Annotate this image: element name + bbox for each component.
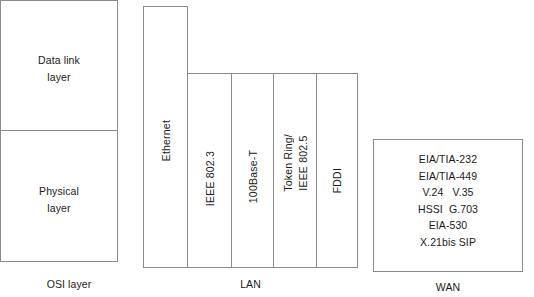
lan-column-token-ring-label-wrap: Token Ring/ IEEE 802.5 xyxy=(274,74,316,267)
osi-physical-layer-label: Physical layer xyxy=(1,183,117,217)
wan-technology-box: EIA/TIA-232 EIA/TIA-449 V.24 V.35 HSSI G… xyxy=(373,139,523,272)
wan-standard-item: V.24 V.35 xyxy=(374,184,522,201)
osi-physical-layer-label-line1: Physical xyxy=(1,183,117,200)
lan-column-ieee-802-3-label: IEEE 802.3 xyxy=(203,151,217,206)
osi-data-link-layer-label-line2: layer xyxy=(1,69,117,86)
network-technology-diagram: Data link layer Physical layer Ethernet … xyxy=(0,0,534,297)
wan-standard-item: EIA-530 xyxy=(374,217,522,234)
wan-standard-item: HSSI G.703 xyxy=(374,201,522,218)
osi-physical-layer-box: Physical layer xyxy=(0,130,118,262)
osi-data-link-layer-label: Data link layer xyxy=(1,52,117,86)
lan-column-ethernet-label-wrap: Ethernet xyxy=(144,7,187,267)
lan-column-fddi-label-wrap: FDDI xyxy=(317,74,357,267)
lan-column-100base-t-label: 100Base-T xyxy=(246,150,260,203)
osi-physical-layer-label-line2: layer xyxy=(1,200,117,217)
wan-standard-item: EIA/TIA-449 xyxy=(374,168,522,185)
lan-column-fddi: FDDI xyxy=(316,73,358,268)
lan-column-100base-t-label-wrap: 100Base-T xyxy=(232,74,273,267)
lan-column-token-ring-label-line2: IEEE 802.5 xyxy=(296,134,310,192)
lan-technology-group: Ethernet IEEE 802.3 100Base-T Token Ring… xyxy=(143,6,358,268)
lan-column-ethernet-label: Ethernet xyxy=(159,120,173,161)
osi-group-caption: OSI layer xyxy=(10,278,128,290)
osi-layer-stack: Data link layer Physical layer xyxy=(0,0,118,262)
osi-data-link-layer-label-line1: Data link xyxy=(1,52,117,69)
lan-column-ieee-802-3: IEEE 802.3 xyxy=(187,73,232,268)
wan-standards-list: EIA/TIA-232 EIA/TIA-449 V.24 V.35 HSSI G… xyxy=(374,151,522,250)
wan-standard-item: EIA/TIA-232 xyxy=(374,151,522,168)
osi-data-link-layer-box: Data link layer xyxy=(0,0,118,131)
lan-column-fddi-label: FDDI xyxy=(330,168,344,193)
lan-column-token-ring-label-group: Token Ring/ IEEE 802.5 xyxy=(281,134,310,192)
lan-column-token-ring-label-line1: Token Ring/ xyxy=(281,134,295,192)
wan-group-caption: WAN xyxy=(373,281,523,293)
lan-column-token-ring: Token Ring/ IEEE 802.5 xyxy=(273,73,317,268)
lan-column-100base-t: 100Base-T xyxy=(231,73,274,268)
lan-group-caption: LAN xyxy=(143,278,358,290)
lan-column-ethernet: Ethernet xyxy=(143,6,188,268)
lan-column-ieee-802-3-label-wrap: IEEE 802.3 xyxy=(188,74,231,267)
wan-standard-item: X.21bis SIP xyxy=(374,234,522,251)
